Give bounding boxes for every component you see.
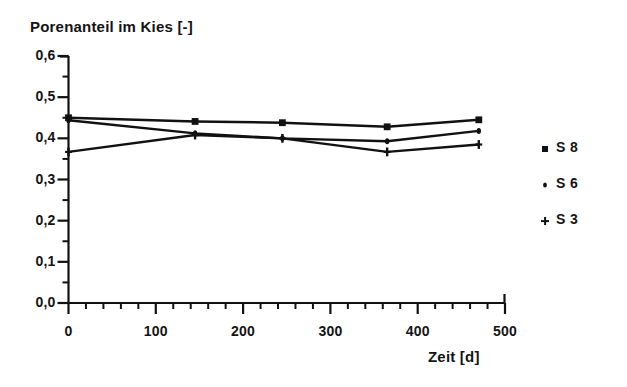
legend-label-s8: S 8 xyxy=(556,139,578,155)
plus-marker-icon xyxy=(538,214,552,228)
data-point-plus xyxy=(279,134,286,143)
y-tick-label: 0,6 xyxy=(12,47,56,63)
legend-label-s6: S 6 xyxy=(556,175,578,191)
data-point-square xyxy=(192,118,199,125)
dot-marker-icon xyxy=(538,178,552,192)
x-tick-label: 200 xyxy=(216,323,270,339)
data-point-square xyxy=(279,119,286,126)
series-lines xyxy=(69,118,479,152)
y-tick-label: 0,3 xyxy=(12,171,56,187)
y-tick-label: 0,1 xyxy=(12,253,56,269)
data-point-plus xyxy=(475,140,482,149)
y-tick-label: 0,0 xyxy=(12,294,56,310)
data-point-square xyxy=(384,123,391,130)
data-point-plus xyxy=(384,148,391,157)
data-point-square xyxy=(475,116,482,123)
legend-item-s3[interactable]: S 3 xyxy=(538,212,618,248)
y-tick-label: 0,5 xyxy=(12,88,56,104)
data-point-dot xyxy=(477,128,481,134)
y-axis-ticks xyxy=(58,56,69,303)
x-tick-label: 100 xyxy=(129,323,183,339)
data-point-dot xyxy=(66,117,70,123)
chart-legend: S 8 S 6 S 3 xyxy=(538,140,618,248)
legend-label-s3: S 3 xyxy=(556,211,578,227)
square-marker-icon xyxy=(538,142,552,156)
x-axis-ticks xyxy=(69,303,506,314)
y-tick-label: 0,2 xyxy=(12,212,56,228)
x-tick-label: 0 xyxy=(42,323,96,339)
y-tick-label: 0,4 xyxy=(12,129,56,145)
data-point-dot xyxy=(385,138,389,144)
legend-item-s8[interactable]: S 8 xyxy=(538,140,618,176)
data-point-plus xyxy=(65,148,72,157)
axis-lines xyxy=(60,56,505,303)
x-tick-label: 400 xyxy=(391,323,445,339)
chart-figure: Porenanteil im Kies [-] 0,60,50,40,30,20… xyxy=(0,0,627,387)
x-tick-label: 300 xyxy=(303,323,357,339)
legend-item-s6[interactable]: S 6 xyxy=(538,176,618,212)
x-axis-label: Zeit [d] xyxy=(428,348,480,365)
x-tick-label: 500 xyxy=(478,323,532,339)
